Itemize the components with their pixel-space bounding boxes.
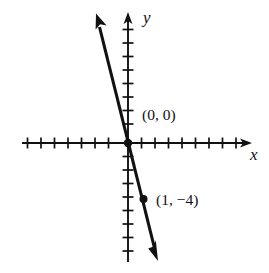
y-axis-label: y xyxy=(143,9,151,26)
x-axis-label: x xyxy=(250,146,258,163)
point-one-negative-four-label: (1, −4) xyxy=(156,192,198,208)
point-origin-marker xyxy=(124,139,132,147)
origin-point-label: (0, 0) xyxy=(142,107,176,123)
point-one-negative-four-marker xyxy=(140,195,148,203)
plot-canvas xyxy=(0,0,269,273)
coordinate-graph-figure: y x (0, 0) (1, −4) xyxy=(0,0,269,273)
x-axis xyxy=(22,138,252,149)
